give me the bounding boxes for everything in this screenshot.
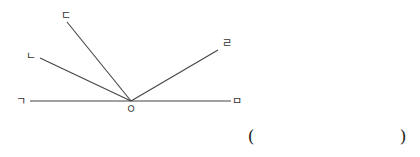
ray-digeut [67, 22, 131, 101]
label-nieun: ㄴ [26, 51, 36, 62]
label-mieum: ㅁ [232, 96, 242, 107]
ray-rieul [131, 50, 218, 101]
answer-blank[interactable] [260, 126, 395, 146]
label-digeut: ㄷ [61, 10, 71, 21]
label-rieul: ㄹ [222, 38, 232, 49]
answer-close-paren: ) [400, 128, 407, 145]
label-vertex: ㅇ [126, 104, 136, 115]
ray-nieun [40, 58, 131, 101]
label-giyeok: ㄱ [16, 96, 26, 107]
answer-open-paren: ( [248, 128, 255, 145]
